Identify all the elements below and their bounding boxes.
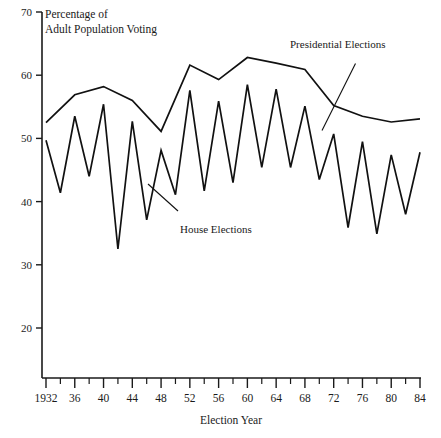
y-tick-label: 60 xyxy=(21,69,33,81)
x-tick-label: 68 xyxy=(299,392,311,404)
x-axis-title: Election Year xyxy=(200,414,262,426)
x-tick-label: 1932 xyxy=(35,392,58,404)
voter-turnout-chart: 203040506070 193236404448525660646872768… xyxy=(0,0,441,438)
chart-title-line-2: Adult Population Voting xyxy=(45,23,157,36)
x-axis-tick-labels: 193236404448525660646872768084 xyxy=(35,392,427,404)
x-tick-label: 80 xyxy=(385,392,397,404)
x-tick-label: 36 xyxy=(69,392,81,404)
annotation-presidential-elections: Presidential Elections xyxy=(290,38,386,50)
x-tick-label: 72 xyxy=(328,392,340,404)
x-tick-label: 56 xyxy=(213,392,225,404)
x-tick-label: 76 xyxy=(357,392,369,404)
y-tick-label: 50 xyxy=(21,132,33,144)
x-tick-label: 48 xyxy=(155,392,167,404)
x-tick-label: 64 xyxy=(270,392,282,404)
x-tick-label: 44 xyxy=(127,392,139,404)
chart-title-line-1: Percentage of xyxy=(45,8,108,21)
y-tick-label: 70 xyxy=(21,6,33,18)
y-tick-label: 30 xyxy=(21,259,33,271)
series-line-presidential-elections xyxy=(46,58,420,132)
x-tick-label: 40 xyxy=(98,392,110,404)
annotation-house-elections: House Elections xyxy=(180,223,252,235)
chart-canvas: 203040506070 193236404448525660646872768… xyxy=(0,0,441,438)
x-tick-label: 84 xyxy=(414,392,426,404)
y-axis-tick-labels: 203040506070 xyxy=(21,6,33,334)
y-tick-label: 20 xyxy=(21,322,33,334)
y-axis-ticks xyxy=(36,12,42,328)
x-tick-label: 60 xyxy=(242,392,254,404)
x-tick-label: 52 xyxy=(184,392,196,404)
x-axis-minor-ticks xyxy=(60,378,405,384)
y-tick-label: 40 xyxy=(21,196,33,208)
